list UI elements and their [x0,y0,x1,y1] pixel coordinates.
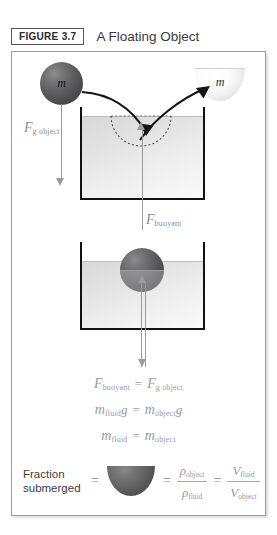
volume-fraction: Vfluid Vobject [227,461,259,500]
figure-number-label: FIGURE 3.7 [19,31,76,42]
equation-3-right-subscript: object [155,435,176,444]
fraction-equals-3: = [207,473,227,489]
equation-mass-equality: mfluid=mobject [12,426,265,444]
density-numerator-subscript: object [186,470,204,479]
equation-2-left-trailing: g [121,402,128,417]
equation-1-left-subscript: buoyant [103,383,130,392]
equation-2-right-symbol: m [145,402,155,417]
equation-3-right-symbol: m [145,428,155,443]
equation-2-right-subscript: object [155,409,176,418]
equation-2-left-symbol: m [95,402,105,417]
density-fraction-numerator: ρobject [177,461,208,479]
equation-3-operator: = [128,428,145,443]
equation-force-balance: Fbuoyant=Fg object [12,374,265,392]
volume-denominator-subscript: object [238,492,256,501]
volume-fraction-numerator: Vfluid [229,461,257,479]
figure-title: A Floating Object [96,29,199,44]
fraction-equals-1: = [85,473,105,489]
fraction-caption-line-1: Fraction [23,467,85,481]
buoyant-force-arrowhead-bottom [138,275,146,283]
equation-1-left-symbol: F [94,376,103,391]
equation-2-left-subscript: fluid [105,409,121,418]
fraction-caption-line-2: submerged [23,481,85,495]
fraction-submerged-row: Fraction submerged = = ρobject ρfluid = … [12,450,265,512]
figure-panel: m m Fg object [11,51,266,516]
volume-fraction-denominator: Vobject [227,483,259,501]
equation-mass-times-g: mfluidg=mobjectg [12,400,265,418]
bottom-scene [12,52,265,515]
fraction-equals-2: = [157,473,177,489]
density-fraction-bar [177,481,208,482]
submerged-hemisphere-icon [107,466,155,496]
fraction-submerged-caption: Fraction submerged [23,467,85,495]
figure-header: FIGURE 3.7 A Floating Object [11,25,266,47]
equation-1-right-subscript: g object [156,383,183,392]
equation-1-right-symbol: F [147,376,156,391]
equation-3-left-symbol: m [101,428,111,443]
equation-2-operator: = [128,402,145,417]
bottom-caption-cropped [12,524,267,535]
buoyant-force-line-bottom [141,283,146,367]
equation-1-operator: = [130,376,147,391]
volume-numerator-subscript: fluid [240,470,254,479]
density-fraction-denominator: ρfluid [179,483,205,501]
density-denominator-subscript: fluid [188,492,202,501]
gravity-force-arrowhead-bottom [138,359,146,367]
equation-2-right-trailing: g [176,402,183,417]
volume-fraction-bar [227,481,259,482]
container-bottom-right-wall [203,242,205,330]
density-fraction: ρobject ρfluid [177,461,208,500]
container-bottom-left-wall [80,242,82,330]
figure-number-badge: FIGURE 3.7 [11,28,84,45]
equation-3-left-subscript: fluid [111,435,127,444]
